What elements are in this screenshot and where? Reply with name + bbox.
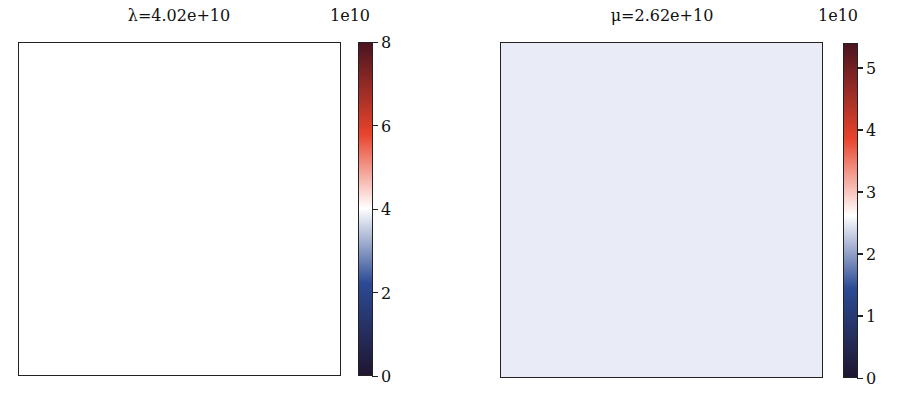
colorbar-tick-label: 2 [866,244,876,263]
mu-value: 2.62e+10 [634,6,713,25]
colorbar-tick-label: 5 [866,58,876,77]
colorbar-tick-label: 4 [866,120,876,139]
mu-symbol: μ [611,6,621,25]
colorbar-tick-label: 0 [866,369,876,388]
colorbar-tick [857,191,863,192]
colorbar-tick-label: 3 [866,182,876,201]
mu-colorbar-offset: 1e10 [818,6,858,25]
colorbar-tick [857,253,863,254]
colorbar-tick [857,315,863,316]
mu-title: μ=2.62e+10 [611,6,714,25]
mu-colorbar [843,43,858,378]
colorbar-tick-label: 1 [866,306,876,325]
colorbar-tick [857,129,863,130]
mu-heatmap [500,42,823,378]
colorbar-tick [857,67,863,68]
mu-panel: μ=2.62e+10 1e10 012345 [0,0,902,403]
colorbar-tick [857,378,863,379]
